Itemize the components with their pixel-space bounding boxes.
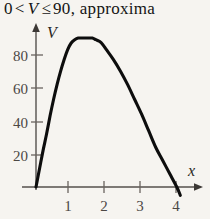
x-tick-label-3: 3 <box>136 198 144 214</box>
data-curve <box>36 38 180 195</box>
plot-svg: 80 60 40 20 1 2 3 4 V x <box>0 18 210 219</box>
y-axis-label: V <box>47 24 59 41</box>
x-tick-label-2: 2 <box>100 198 108 214</box>
figure-page: 0<V≤90, approxima 80 60 40 20 <box>0 0 210 219</box>
y-axis-arrowhead <box>32 23 40 32</box>
caption-value-zero: 0 <box>4 0 13 18</box>
x-axis-arrowhead <box>194 183 203 191</box>
math-caption: 0<V≤90, approxima <box>4 0 210 20</box>
caption-variable-v: V <box>27 0 40 18</box>
x-axis-label: x <box>187 162 195 179</box>
y-tick-label-80: 80 <box>13 48 28 64</box>
caption-less-than-operator: < <box>13 0 27 18</box>
caption-tail-text: 90, approxima <box>53 0 155 18</box>
y-tick-label-20: 20 <box>13 148 28 164</box>
x-tick-label-4: 4 <box>172 198 180 214</box>
y-tick-label-60: 60 <box>13 81 28 97</box>
y-tick-label-40: 40 <box>13 115 28 131</box>
caption-less-equal-operator: ≤ <box>39 0 53 18</box>
x-tick-label-1: 1 <box>64 198 72 214</box>
plot-figure: 80 60 40 20 1 2 3 4 V x <box>0 18 210 219</box>
